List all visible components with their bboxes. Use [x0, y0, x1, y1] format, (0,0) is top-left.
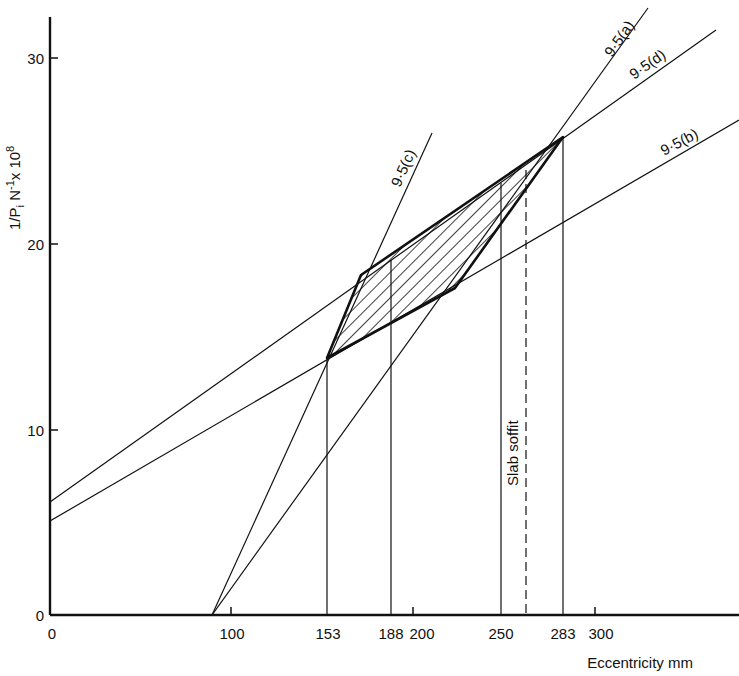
- x-tick-200: 200: [409, 625, 434, 642]
- chart-canvas: 30 20 10 0 0 100 153 188 200 250 283 300…: [0, 0, 739, 676]
- x-axis-title: Eccentricity mm: [587, 654, 693, 671]
- line-9-5-c: [212, 133, 432, 615]
- label-9-5-b: 9·5(b): [657, 125, 700, 159]
- label-9-5-d: 9·5(d): [626, 46, 669, 83]
- y-axis-title: 1/Pi N-1x 108: [4, 146, 26, 230]
- x-tick-100: 100: [219, 625, 244, 642]
- line-9-5-a: [212, 8, 648, 615]
- y-tick-labels: 30 20 10 0: [27, 50, 44, 624]
- x-tick-labels: 0 100 153 188 200 250 283 300: [48, 625, 614, 642]
- x-tick-300: 300: [588, 625, 613, 642]
- svg-text:1/Pi N-1x 108: 1/Pi N-1x 108: [4, 146, 26, 230]
- x-tick-188: 188: [378, 625, 403, 642]
- y-tick-10: 10: [27, 422, 44, 439]
- x-tick-283: 283: [550, 625, 575, 642]
- label-9-5-a: 9·5(a): [601, 17, 638, 60]
- feasible-region: [327, 137, 563, 358]
- y-tick-20: 20: [27, 236, 44, 253]
- x-tick-0: 0: [48, 625, 56, 642]
- x-tick-153: 153: [315, 625, 340, 642]
- label-9-5-c: 9·5(c): [387, 147, 418, 190]
- label-slab-soffit: Slab soffit: [504, 420, 521, 486]
- x-tick-250: 250: [488, 625, 513, 642]
- y-tick-0: 0: [36, 607, 44, 624]
- y-tick-30: 30: [27, 50, 44, 67]
